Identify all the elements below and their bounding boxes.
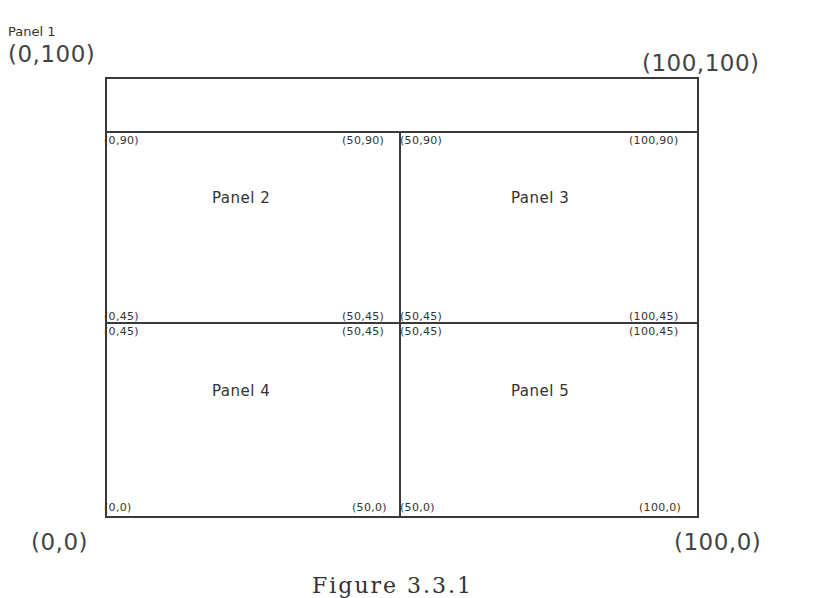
corner-bottom-right-label: (100,0): [674, 529, 761, 555]
panel-3-corner-br: (100,45): [629, 310, 678, 323]
panel-4-corner-br: (50,0): [352, 501, 387, 514]
panel-4-label: Panel 4: [212, 382, 270, 400]
outer-right-border: [697, 77, 699, 518]
divider-y90: [105, 131, 699, 133]
panel-5-corner-tr: (100,45): [629, 325, 678, 338]
panel-2-corner-bl: (0,45): [104, 310, 139, 323]
panel-4-corner-tr: (50,45): [342, 325, 384, 338]
outer-top-border: [105, 77, 699, 79]
panel-3-corner-tl: (50,90): [400, 134, 442, 147]
panel-5-corner-bl: (50,0): [400, 501, 435, 514]
panel-3-label: Panel 3: [511, 189, 569, 207]
panel-3-corner-bl: (50,45): [400, 310, 442, 323]
panel-5-corner-br: (100,0): [639, 501, 681, 514]
panel-4-corner-bl: (0,0): [104, 501, 132, 514]
corner-bottom-left-label: (0,0): [31, 529, 88, 555]
panel-5-corner-tl: (50,45): [400, 325, 442, 338]
panel-5-label: Panel 5: [511, 382, 569, 400]
figure-caption: Figure 3.3.1: [312, 573, 473, 598]
panel-3-corner-tr: (100,90): [629, 134, 678, 147]
panel-4-corner-tl: (0,45): [104, 325, 139, 338]
panel-1-title: Panel 1: [8, 24, 55, 39]
corner-top-right-label: (100,100): [642, 50, 760, 76]
panel-2-label: Panel 2: [212, 189, 270, 207]
corner-top-left-label: (0,100): [8, 41, 95, 67]
panel-2-corner-br: (50,45): [342, 310, 384, 323]
outer-bottom-border: [105, 516, 699, 518]
panel-2-corner-tr: (50,90): [342, 134, 384, 147]
panel-2-corner-tl: (0,90): [104, 134, 139, 147]
